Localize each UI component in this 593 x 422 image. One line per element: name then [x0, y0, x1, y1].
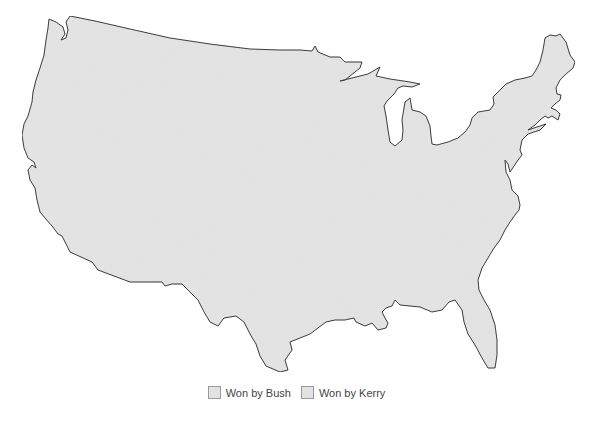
- legend-label-kerry: Won by Kerry: [319, 387, 385, 399]
- legend-swatch-kerry: [301, 386, 314, 399]
- legend-item-bush: Won by Bush: [208, 386, 291, 399]
- us-landmass: [22, 16, 575, 372]
- legend-item-kerry: Won by Kerry: [301, 386, 385, 399]
- legend-swatch-bush: [208, 386, 221, 399]
- legend-label-bush: Won by Bush: [226, 387, 291, 399]
- map-legend: Won by Bush Won by Kerry: [0, 386, 593, 399]
- us-election-map: [0, 0, 593, 380]
